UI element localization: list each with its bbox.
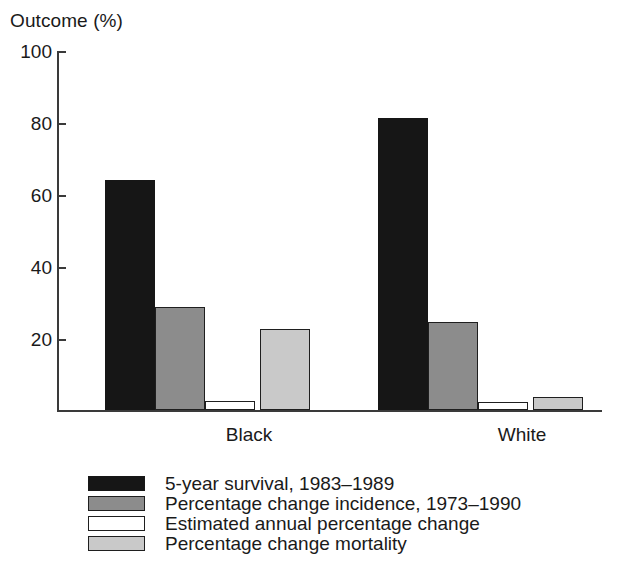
x-axis-category-label-black: Black bbox=[179, 424, 319, 446]
bar-chart-figure: Outcome (%) 10080604020 BlackWhite 5-yea… bbox=[0, 0, 623, 588]
bar bbox=[428, 322, 478, 410]
bar bbox=[105, 180, 155, 410]
gray-filled-swatch bbox=[88, 496, 145, 511]
legend-item-label: Percentage change incidence, 1973–1990 bbox=[165, 494, 521, 513]
y-axis-tick-label: 40 bbox=[4, 258, 52, 277]
legend-item: Percentage change mortality bbox=[88, 534, 521, 553]
x-axis-line bbox=[57, 410, 602, 412]
y-axis-tick-label: 100 bbox=[4, 42, 52, 61]
y-axis-tick-label: 60 bbox=[4, 186, 52, 205]
y-axis-tick-label: 80 bbox=[4, 114, 52, 133]
legend-item-label: Percentage change mortality bbox=[165, 534, 407, 553]
plot-area bbox=[57, 52, 602, 412]
white-outlined-swatch bbox=[88, 516, 145, 531]
bar bbox=[155, 307, 205, 410]
y-axis-line bbox=[57, 52, 59, 412]
bar bbox=[478, 402, 528, 410]
light-gray-filled-swatch bbox=[88, 536, 145, 551]
bar bbox=[533, 397, 583, 410]
legend-item-label: 5-year survival, 1983–1989 bbox=[165, 474, 394, 493]
y-axis-title: Outcome (%) bbox=[10, 10, 123, 32]
legend-item: 5-year survival, 1983–1989 bbox=[88, 474, 521, 493]
x-axis-category-label-white: White bbox=[452, 424, 592, 446]
bar bbox=[205, 401, 255, 410]
y-axis-tick-label: 20 bbox=[4, 330, 52, 349]
bar bbox=[260, 329, 310, 410]
legend-item-label: Estimated annual percentage change bbox=[165, 514, 480, 533]
legend-item: Estimated annual percentage change bbox=[88, 514, 521, 533]
legend-item: Percentage change incidence, 1973–1990 bbox=[88, 494, 521, 513]
legend: 5-year survival, 1983–1989Percentage cha… bbox=[88, 474, 521, 554]
bar bbox=[378, 118, 428, 410]
black-filled-swatch bbox=[88, 476, 145, 491]
